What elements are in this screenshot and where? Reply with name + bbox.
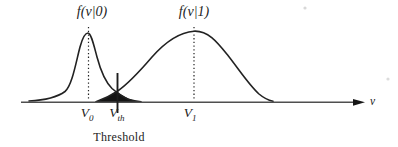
scan-artifact-dot — [303, 6, 306, 9]
pdf1-label: f(v|1) — [179, 5, 209, 19]
pdf0-curve — [29, 33, 141, 102]
v0-label-sub: 0 — [89, 113, 94, 123]
threshold-caption: Threshold — [93, 131, 144, 143]
v-axis-arrowhead-icon — [353, 99, 365, 106]
figure-canvas — [0, 0, 398, 147]
v1-label: V1 — [184, 106, 197, 120]
scan-artifact-dot — [386, 77, 389, 80]
v0-label-main: V — [81, 105, 89, 120]
vth-label-sub: th — [118, 113, 125, 123]
pdf1-curve — [96, 31, 273, 102]
v1-label-sub: 1 — [192, 113, 197, 123]
threshold-detection-figure: f(v|0) f(v|1) V0 Vth V1 Threshold v — [0, 0, 398, 147]
v-axis-label: v — [370, 96, 375, 108]
v1-label-main: V — [184, 105, 192, 120]
pdf0-label: f(v|0) — [77, 5, 107, 19]
vth-label: Vth — [109, 106, 124, 120]
v0-label: V0 — [81, 106, 94, 120]
